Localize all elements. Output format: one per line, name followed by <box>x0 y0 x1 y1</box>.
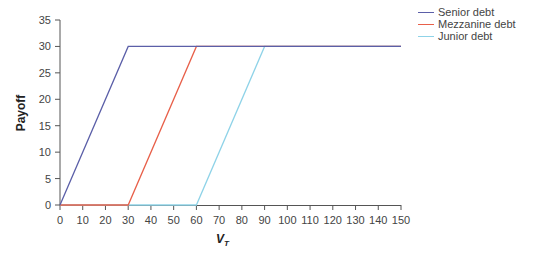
x-tick-label: 0 <box>57 214 63 226</box>
legend-label-junior: Junior debt <box>438 30 492 42</box>
x-tick-label: 110 <box>301 214 319 226</box>
x-tick-label: 100 <box>278 214 296 226</box>
legend: Senior debt Mezzanine debt Junior debt <box>418 6 516 42</box>
x-tick-label: 10 <box>77 214 89 226</box>
legend-label-mezzanine: Mezzanine debt <box>438 18 516 30</box>
legend-item-senior: Senior debt <box>418 6 516 18</box>
x-tick-label: 150 <box>392 214 410 226</box>
x-tick-label: 60 <box>190 214 202 226</box>
x-tick-label: 130 <box>346 214 364 226</box>
y-tick-label: 0 <box>45 199 51 211</box>
series-lines <box>60 46 401 205</box>
legend-item-junior: Junior debt <box>418 30 516 42</box>
x-tick-label: 30 <box>122 214 134 226</box>
x-tick-label: 120 <box>324 214 342 226</box>
x-tick-label: 80 <box>236 214 248 226</box>
x-tick-label: 50 <box>168 214 180 226</box>
y-tick-label: 35 <box>39 14 51 26</box>
legend-label-senior: Senior debt <box>438 6 494 18</box>
y-axis: 05101520253035 <box>39 14 60 211</box>
y-tick-label: 5 <box>45 173 51 185</box>
x-axis-title: VT <box>216 232 230 248</box>
y-tick-label: 20 <box>39 93 51 105</box>
x-tick-label: 90 <box>258 214 270 226</box>
legend-swatch-mezzanine <box>418 24 434 25</box>
y-tick-label: 25 <box>39 67 51 79</box>
x-tick-label: 70 <box>213 214 225 226</box>
legend-item-mezzanine: Mezzanine debt <box>418 18 516 30</box>
y-axis-title: Payoff <box>14 94 28 132</box>
x-tick-label: 20 <box>99 214 111 226</box>
x-tick-label: 40 <box>145 214 157 226</box>
y-tick-label: 30 <box>39 40 51 52</box>
y-tick-label: 15 <box>39 120 51 132</box>
legend-swatch-junior <box>418 36 434 37</box>
legend-swatch-senior <box>418 12 434 13</box>
y-tick-label: 10 <box>39 146 51 158</box>
x-axis-title-sub: T <box>224 239 230 248</box>
series-line-junior-debt <box>60 46 401 205</box>
x-axis: 0102030405060708090100110120130140150 <box>57 205 410 226</box>
x-tick-label: 140 <box>369 214 387 226</box>
